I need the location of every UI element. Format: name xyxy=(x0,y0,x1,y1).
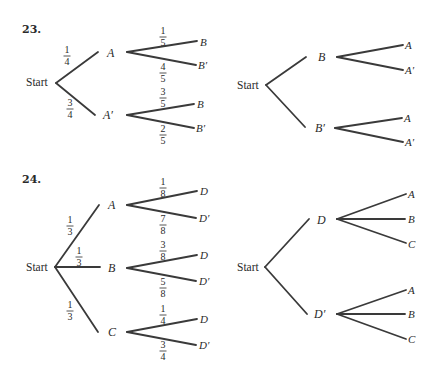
svg-text:5: 5 xyxy=(161,37,166,48)
branch-b-prime-a-prime xyxy=(335,128,403,142)
svg-text:8: 8 xyxy=(161,225,166,236)
branch-d-c xyxy=(337,219,406,243)
start-label: Start xyxy=(237,261,260,273)
branch-start-b xyxy=(266,57,306,85)
node-d-prime: D′ xyxy=(313,307,326,321)
prob-start-b: 1 3 xyxy=(76,245,83,268)
prob-a-d: 1 8 xyxy=(160,176,167,199)
leaf-b-prime: B′ xyxy=(196,122,206,134)
node-a: A xyxy=(107,198,116,212)
svg-text:5: 5 xyxy=(161,73,166,84)
tree-diagrams-figure: 23. Start 1 4 3 4 A A′ 1 xyxy=(0,0,437,391)
leaf-d: D xyxy=(199,249,208,261)
node-b-prime: B′ xyxy=(315,121,325,135)
svg-text:2: 2 xyxy=(161,123,166,134)
leaf-b: B xyxy=(197,98,204,110)
svg-text:4: 4 xyxy=(161,61,166,72)
prob-start-a-prime: 3 4 xyxy=(67,97,74,120)
branch-start-a xyxy=(56,52,98,83)
leaf-d: D xyxy=(199,185,208,197)
leaf-d-prime: D′ xyxy=(198,212,210,224)
leaf-d-prime: D′ xyxy=(198,339,210,351)
leaf-b: B xyxy=(200,36,207,48)
svg-text:1: 1 xyxy=(68,214,73,225)
leaf-a: A xyxy=(404,39,412,51)
svg-text:7: 7 xyxy=(161,213,166,224)
start-label: Start xyxy=(26,76,49,88)
leaf-a-prime: A′ xyxy=(404,64,415,76)
branch-d-prime-a xyxy=(337,290,406,314)
branch-d-prime-c xyxy=(337,314,406,339)
leaf-a-prime: A′ xyxy=(404,136,415,148)
node-a-prime: A′ xyxy=(102,108,113,122)
svg-text:3: 3 xyxy=(68,311,73,322)
branch-start-d xyxy=(265,219,309,267)
leaf-b-prime: B′ xyxy=(198,59,208,71)
branch-start-a-prime xyxy=(56,83,95,115)
svg-text:3: 3 xyxy=(77,257,82,268)
svg-text:4: 4 xyxy=(65,56,70,67)
node-c: C xyxy=(108,325,117,339)
start-label: Start xyxy=(26,261,49,273)
leaf-a: A xyxy=(403,112,411,124)
prob-start-a: 1 3 xyxy=(67,214,74,237)
probability-tree-24: Start 1 3 1 3 1 3 A B C xyxy=(26,176,210,362)
prob-a-d-prime: 7 8 xyxy=(160,213,167,236)
svg-text:4: 4 xyxy=(161,351,166,362)
svg-text:5: 5 xyxy=(161,135,166,146)
branch-start-c xyxy=(55,267,98,332)
leaf-a: A xyxy=(407,188,415,200)
branch-d-a xyxy=(337,194,406,219)
svg-text:3: 3 xyxy=(161,86,166,97)
problem-24: 24. Start 1 3 1 3 1 3 A B xyxy=(22,173,416,362)
prob-a-b-prime: 4 5 xyxy=(160,61,167,84)
node-a: A xyxy=(106,46,115,60)
branch-b-prime-a xyxy=(335,118,402,128)
leaf-d: D xyxy=(199,313,208,325)
node-d: D xyxy=(316,213,326,227)
svg-text:8: 8 xyxy=(161,188,166,199)
svg-text:4: 4 xyxy=(68,109,73,120)
svg-text:4: 4 xyxy=(161,315,166,326)
svg-text:1: 1 xyxy=(161,176,166,187)
svg-text:5: 5 xyxy=(161,276,166,287)
svg-text:1: 1 xyxy=(77,245,82,256)
prob-b-d-prime: 5 8 xyxy=(160,276,167,299)
svg-text:5: 5 xyxy=(161,98,166,109)
node-b: B xyxy=(318,50,326,64)
branch-b-a-prime xyxy=(337,57,403,70)
svg-text:3: 3 xyxy=(161,239,166,250)
prob-start-c: 1 3 xyxy=(67,299,74,322)
leaf-b: B xyxy=(408,213,415,225)
reverse-tree-24: Start D D′ A B C A B C xyxy=(237,188,416,345)
reverse-tree-23: Start B B′ A A′ A A′ xyxy=(237,39,415,148)
leaf-c: C xyxy=(408,333,416,345)
prob-a-b: 1 5 xyxy=(160,25,167,48)
branch-b-a xyxy=(337,45,403,57)
problem-number: 24. xyxy=(22,173,41,186)
leaf-a: A xyxy=(407,284,415,296)
probability-tree-23: Start 1 4 3 4 A A′ 1 5 xyxy=(26,25,208,146)
prob-c-d-prime: 3 4 xyxy=(160,339,167,362)
node-b: B xyxy=(108,261,116,275)
svg-text:3: 3 xyxy=(68,97,73,108)
leaf-d-prime: D′ xyxy=(198,275,210,287)
leaf-c: C xyxy=(408,238,416,250)
prob-c-d: 1 4 xyxy=(160,303,167,326)
prob-a-prime-b-prime: 2 5 xyxy=(160,123,167,146)
svg-text:8: 8 xyxy=(161,288,166,299)
branch-start-d-prime xyxy=(265,267,307,314)
prob-start-a: 1 4 xyxy=(64,44,71,67)
problem-23: 23. Start 1 4 3 4 A A′ 1 xyxy=(22,23,415,148)
problem-number: 23. xyxy=(22,23,41,36)
svg-text:3: 3 xyxy=(161,339,166,350)
svg-text:3: 3 xyxy=(68,226,73,237)
leaf-b: B xyxy=(408,308,415,320)
svg-text:8: 8 xyxy=(161,251,166,262)
svg-text:1: 1 xyxy=(161,303,166,314)
svg-text:1: 1 xyxy=(161,25,166,36)
svg-text:1: 1 xyxy=(65,44,70,55)
prob-b-d: 3 8 xyxy=(160,239,167,262)
start-label: Start xyxy=(237,79,260,91)
svg-text:1: 1 xyxy=(68,299,73,310)
